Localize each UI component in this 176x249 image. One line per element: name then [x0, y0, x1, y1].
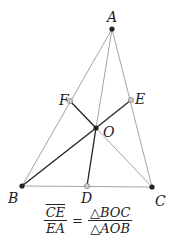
- segment-ratio: CE EA: [44, 205, 67, 236]
- point-b: [19, 183, 24, 188]
- point-o: [93, 125, 98, 130]
- segment-bo: [22, 128, 96, 186]
- cevians: [22, 100, 131, 186]
- point-a: [109, 26, 114, 31]
- point-e: [128, 97, 133, 102]
- point-d: [84, 183, 89, 188]
- points: [19, 26, 154, 189]
- area-ratio: △BOC △AOB: [88, 205, 132, 236]
- segment-ce: CE: [46, 205, 65, 220]
- segment-of: [70, 101, 96, 128]
- label-e: E: [134, 91, 145, 107]
- segment-ea: EA: [46, 221, 65, 236]
- label-b: B: [7, 190, 18, 206]
- ratio-formula: CE EA = △BOC △AOB: [0, 205, 176, 236]
- label-f: F: [58, 92, 70, 108]
- label-d: D: [80, 190, 92, 206]
- triangle-abc: [22, 29, 152, 187]
- side-ac: [112, 29, 152, 187]
- equals-sign: =: [72, 213, 83, 228]
- area-boc: △BOC: [88, 205, 132, 221]
- ratio-denominator: EA: [44, 221, 67, 236]
- area-aob: △AOB: [88, 221, 132, 236]
- segment-od: [87, 128, 96, 186]
- label-a: A: [105, 9, 117, 25]
- point-c: [149, 184, 154, 189]
- label-o: O: [103, 124, 115, 140]
- ratio-numerator: CE: [44, 205, 67, 221]
